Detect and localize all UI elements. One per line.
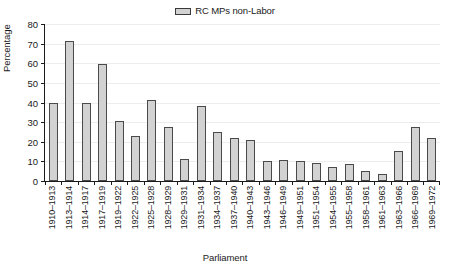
x-axis-tick-mark — [407, 181, 408, 185]
bar[interactable] — [131, 136, 140, 181]
x-axis-tick-label: 1961–1963 — [377, 186, 387, 229]
bar[interactable] — [82, 103, 91, 181]
x-axis-tick-label: 1954–1955 — [328, 186, 338, 229]
x-axis-tick-mark — [423, 181, 424, 185]
y-axis-tick-label: 0 — [33, 176, 38, 187]
bar[interactable] — [115, 121, 124, 181]
x-axis-tick — [325, 181, 341, 185]
x-axis-tick — [358, 181, 374, 185]
bar[interactable] — [147, 100, 156, 181]
x-axis-tick-label: 1940–1943 — [245, 186, 255, 229]
x-axis-tick — [423, 181, 439, 185]
bar-slot — [111, 24, 127, 181]
bar[interactable] — [296, 161, 305, 181]
x-axis-tick-mark — [358, 181, 359, 185]
bar[interactable] — [411, 127, 420, 181]
x-axis-tick-mark — [193, 181, 194, 185]
x-axis-tick — [308, 181, 324, 185]
bar[interactable] — [427, 138, 436, 181]
y-axis-tick-label: 80 — [27, 19, 38, 30]
x-axis-tick-mark — [78, 181, 79, 185]
x-axis-label-cell: 1951–1954 — [308, 186, 325, 246]
x-axis-tick-label: 1943–1946 — [262, 186, 272, 229]
x-axis-tick-mark — [341, 181, 342, 185]
bar-slot — [226, 24, 242, 181]
bar-series — [45, 24, 440, 181]
x-axis-tick-label: 1928–1929 — [163, 186, 173, 229]
y-axis-tick-label: 60 — [27, 58, 38, 69]
bar[interactable] — [164, 127, 173, 181]
bar-slot — [275, 24, 291, 181]
x-axis-tick-mark — [242, 181, 243, 185]
x-axis-label-cell: 1929–1931 — [176, 186, 193, 246]
x-axis-label-cell: 1963–1966 — [391, 186, 408, 246]
bar[interactable] — [378, 174, 387, 181]
x-axis-tick-mark — [391, 181, 392, 185]
x-axis-tick — [127, 181, 143, 185]
x-axis-label-cell: 1966–1969 — [407, 186, 424, 246]
bar-slot — [193, 24, 209, 181]
x-axis-tick — [292, 181, 308, 185]
x-axis-label-cell: 1913–1914 — [61, 186, 78, 246]
x-axis-tick-mark — [439, 181, 440, 185]
bar[interactable] — [345, 164, 354, 181]
bar[interactable] — [180, 159, 189, 181]
bar[interactable] — [328, 167, 337, 181]
x-axis-tick — [210, 181, 226, 185]
bar[interactable] — [98, 64, 107, 181]
x-axis-tick-mark — [210, 181, 211, 185]
x-axis-tick-label: 1963–1966 — [394, 186, 404, 229]
x-axis-tick-mark — [111, 181, 112, 185]
legend-swatch-icon — [175, 8, 191, 15]
x-axis-label-cell: 1958–1961 — [358, 186, 375, 246]
x-axis-label-cell: 1969–1972 — [424, 186, 441, 246]
bar[interactable] — [197, 106, 206, 181]
bar-slot — [325, 24, 341, 181]
chart-legend: RC MPs non-Labor — [0, 4, 450, 18]
x-axis-ticks — [45, 181, 440, 185]
bar[interactable] — [213, 132, 222, 181]
plot-area: 80706050403020100 — [44, 24, 440, 182]
x-axis-tick — [193, 181, 209, 185]
y-axis-tick-label: 40 — [27, 98, 38, 109]
x-axis-tick-mark — [144, 181, 145, 185]
x-axis-tick — [374, 181, 390, 185]
x-axis-label-cell: 1922–1925 — [127, 186, 144, 246]
bar[interactable] — [65, 41, 74, 181]
legend-label: RC MPs non-Labor — [195, 6, 275, 16]
bar-slot — [423, 24, 439, 181]
bar[interactable] — [49, 103, 58, 181]
x-axis-tick-label: 1934–1937 — [212, 186, 222, 229]
x-axis-label-cell: 1910–1913 — [44, 186, 61, 246]
bar-slot — [391, 24, 407, 181]
y-axis-tick-label: 20 — [27, 137, 38, 148]
bar[interactable] — [230, 138, 239, 181]
bar[interactable] — [394, 151, 403, 181]
x-axis-tick-mark — [292, 181, 293, 185]
x-axis-tick-labels: 1910–19131913–19141914–19171917–19191919… — [44, 186, 440, 246]
x-axis-label-cell: 1943–1946 — [259, 186, 276, 246]
x-axis-tick-label: 1929–1931 — [179, 186, 189, 229]
x-axis-label-cell: 1961–1963 — [374, 186, 391, 246]
x-axis-tick — [391, 181, 407, 185]
bar-slot — [94, 24, 110, 181]
x-axis-label-cell: 1931–1934 — [193, 186, 210, 246]
x-axis-tick — [160, 181, 176, 185]
x-axis-tick-label: 1925–1928 — [146, 186, 156, 229]
x-axis-tick-label: 1969–1972 — [427, 186, 437, 229]
bar[interactable] — [361, 171, 370, 181]
bar[interactable] — [246, 140, 255, 181]
x-axis-tick — [242, 181, 258, 185]
bar[interactable] — [279, 160, 288, 181]
bar[interactable] — [312, 163, 321, 181]
bar[interactable] — [263, 161, 272, 181]
x-axis-tick-label: 1910–1913 — [47, 186, 57, 229]
bar-slot — [292, 24, 308, 181]
x-axis-label-cell: 1919–1922 — [110, 186, 127, 246]
x-axis-tick — [407, 181, 423, 185]
bar-slot — [374, 24, 390, 181]
x-axis-tick-mark — [325, 181, 326, 185]
x-axis-tick-mark — [127, 181, 128, 185]
y-axis-title: Percentage — [1, 48, 12, 60]
x-axis-label-cell: 1940–1943 — [242, 186, 259, 246]
